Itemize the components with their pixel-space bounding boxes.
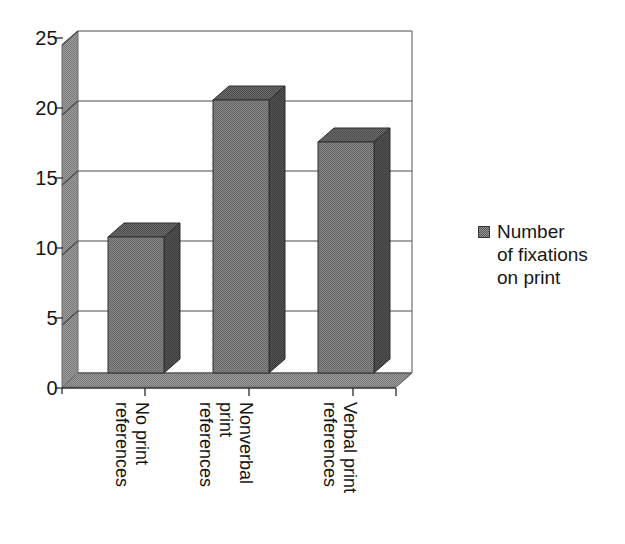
category-label-nonverbal-print-references: Nonverbal print references bbox=[196, 402, 256, 487]
bar-chart: 25 20 15 10 5 0 No print references Nonv… bbox=[0, 0, 625, 544]
bar-nonverbal-print-references bbox=[213, 86, 285, 373]
category-label-no-print-references: No print references bbox=[112, 402, 152, 487]
y-tick-20: 20 bbox=[35, 97, 58, 120]
y-axis-labels: 25 20 15 10 5 0 bbox=[14, 0, 58, 544]
y-tick-15: 15 bbox=[35, 167, 58, 190]
plot-floor bbox=[62, 373, 412, 387]
chart-legend: Number of fixations on print bbox=[478, 220, 588, 289]
legend-swatch-icon bbox=[478, 226, 490, 238]
plot-left-wall bbox=[62, 31, 78, 387]
y-tick-5: 5 bbox=[47, 307, 58, 330]
y-tick-25: 25 bbox=[35, 27, 58, 50]
x-axis bbox=[62, 388, 396, 396]
bar-verbal-print-references bbox=[318, 128, 390, 373]
category-label-verbal-print-references: Verbal print references bbox=[320, 402, 360, 493]
legend-label-number-of-fixations-on-print: Number of fixations on print bbox=[497, 220, 588, 289]
y-tick-0: 0 bbox=[47, 377, 58, 400]
y-tick-10: 10 bbox=[35, 237, 58, 260]
bar-no-print-references bbox=[108, 223, 180, 373]
